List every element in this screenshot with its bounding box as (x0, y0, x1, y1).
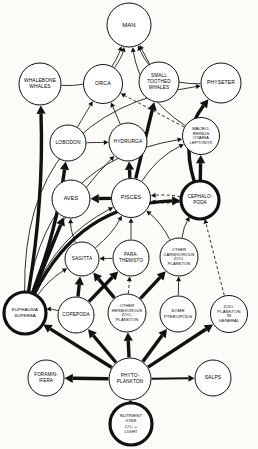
edge-euphausia-to-macro (28, 140, 177, 292)
edge-copepoda-to-sagitta (78, 285, 79, 297)
node-circle-otherherb[interactable] (108, 294, 146, 332)
food-web-diagram: MANWHALEBONEWHALESORCASMALLTOOTHEDWHALES… (0, 0, 258, 449)
node-othercarn[interactable]: OTHERCARNIVOROUSZOO-PLANKTON (160, 238, 198, 276)
arrowhead-macro-to-man (131, 47, 136, 52)
edge-othercarn-to-pisces (150, 214, 170, 240)
arrowhead-lobodon-to-hydrurga (104, 140, 109, 145)
edge-pisces-to-macro (142, 146, 180, 181)
node-foram[interactable]: FORAMIN-IFERA (28, 360, 64, 396)
arrowhead-pisces-to-smalltooth (148, 102, 157, 111)
arrowhead-otherherb-to-parathem (127, 277, 132, 282)
node-circle-man[interactable] (107, 3, 151, 47)
edge-euphausia-to-whalebone (29, 114, 42, 292)
node-circle-cephalo[interactable] (181, 181, 219, 219)
edge-phyto-to-zoogeneral (148, 329, 206, 367)
node-circle-lobodon[interactable] (50, 125, 86, 161)
node-lobodon[interactable]: LOBODON (50, 125, 86, 161)
node-nutrient[interactable]: NUTRIENTIONSCO₂ +LIGHT (110, 403, 152, 445)
node-zoogeneral[interactable]: ZOO-PLANKTONINGENERAL (211, 296, 248, 333)
node-copepoda[interactable]: COPEPODA (58, 297, 94, 333)
node-sagitta[interactable]: SAGITTA (65, 242, 99, 276)
node-circle-phyto[interactable] (109, 358, 151, 400)
node-pisces[interactable]: PISCES (112, 179, 151, 218)
node-circle-physeter[interactable] (201, 63, 241, 103)
node-circle-nutrient[interactable] (110, 403, 152, 445)
arrowhead-pisces-to-aves (91, 194, 99, 203)
edge-othercarn-to-cephalo (182, 221, 187, 238)
edge-otherherb-to-othercarn (140, 277, 160, 298)
node-aves[interactable]: AVES (52, 180, 90, 218)
node-smalltooth[interactable]: SMALLTOOTHEDWHALES (139, 62, 179, 102)
node-cephalo[interactable]: CEPHALO-PODA (181, 181, 219, 219)
node-circle-sagitta[interactable] (65, 242, 99, 276)
node-circle-smalltooth[interactable] (139, 62, 179, 102)
food-web-canvas: MANWHALEBONEWHALESORCASMALLTOOTHEDWHALES… (0, 0, 258, 449)
node-otherherb[interactable]: OTHERHERBIVOROUSZOO-PLANKTON (108, 294, 146, 332)
node-circle-foram[interactable] (28, 360, 64, 396)
arrowhead-phyto-to-otherherb (124, 333, 133, 341)
edge-zoogeneral-to-cephalo (206, 223, 224, 295)
node-circle-whalebone[interactable] (19, 63, 61, 105)
edge-phyto-to-pteropods (143, 336, 162, 362)
node-circle-parathem[interactable] (113, 240, 149, 276)
node-circle-euphausia[interactable] (4, 292, 46, 334)
node-circle-orca[interactable] (84, 65, 123, 104)
arrowhead-cephalo-to-pisces (151, 193, 156, 198)
arrowhead-copepoda-to-sagitta (75, 277, 84, 286)
arrowhead-euphausia-to-lobodon (60, 161, 69, 170)
node-circle-macro[interactable] (183, 118, 220, 155)
arrowhead-pteropods-to-othercarn (176, 277, 181, 282)
edge-cephalo-to-pisces (156, 195, 181, 197)
node-circle-copepoda[interactable] (58, 297, 94, 333)
arrowhead-euphausia-to-physeter (196, 84, 201, 89)
node-circle-othercarn[interactable] (160, 238, 198, 276)
node-hydrurga[interactable]: HYDRURGA (109, 123, 147, 161)
arrowhead-euphausia-to-whalebone (36, 106, 45, 114)
node-circle-pisces[interactable] (112, 179, 151, 218)
node-salps[interactable]: SALPS (195, 360, 231, 396)
arrowhead-euphausia-to-sagitta (62, 268, 67, 273)
arrowhead-phyto-to-salps (188, 375, 194, 382)
edge-lobodon-to-orca (77, 105, 90, 127)
edge-copepoda-to-euphausia (51, 309, 58, 311)
node-whalebone[interactable]: WHALEBONEWHALES (19, 63, 61, 105)
arrowhead-euphausia-to-macro (177, 137, 182, 142)
arrowhead-euphausia-to-cephalo (172, 196, 180, 205)
node-phyto[interactable]: PHYTO-PLANKTON (109, 358, 151, 400)
edge-phyto-to-otherherb (128, 341, 129, 358)
node-macro[interactable]: MACRO-RHINUSOTARIALEPTONYX (183, 118, 220, 155)
arrowhead-parathem-to-sagitta (100, 256, 105, 261)
arrowhead-cephalo-to-macro (196, 155, 205, 163)
node-euphausia[interactable]: EUPHAUSIASUPERBA (4, 292, 46, 334)
node-man[interactable]: MAN (107, 3, 151, 47)
node-physeter[interactable]: PHYSETER (201, 63, 241, 103)
arrowhead-sagitta-to-aves (68, 219, 73, 224)
arrowhead-pisces-to-hydrurga (125, 162, 134, 170)
node-circle-aves[interactable] (52, 180, 90, 218)
arrowhead-parathem-to-pisces (129, 218, 134, 223)
node-parathem[interactable]: PARA-THEMISTO (113, 240, 149, 276)
node-circle-salps[interactable] (195, 360, 231, 396)
nodes-layer: MANWHALEBONEWHALESORCASMALLTOOTHEDWHALES… (4, 3, 248, 445)
edge-sagitta-to-pisces (96, 220, 120, 248)
node-circle-zoogeneral[interactable] (211, 296, 248, 333)
arrowhead-phyto-to-foram (65, 374, 73, 383)
node-orca[interactable]: ORCA (84, 65, 123, 104)
node-circle-hydrurga[interactable] (109, 123, 147, 161)
node-pteropods[interactable]: SOMEPTEROPODS (160, 296, 196, 332)
edge-otherherb-to-parathem (128, 281, 129, 293)
node-circle-pteropods[interactable] (160, 296, 196, 332)
